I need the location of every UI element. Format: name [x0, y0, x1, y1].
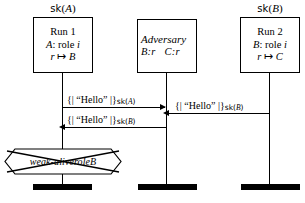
- adversary-binding-b: B:r: [141, 46, 156, 57]
- run2-var-mapping: r ↦ C: [257, 51, 282, 63]
- lane-header-run2: sk(B): [240, 2, 300, 14]
- run1-title: Run 1: [50, 26, 75, 38]
- lane-header-run2-prefix: sk: [257, 3, 268, 14]
- lane-header-run2-arg: B: [272, 2, 279, 14]
- msg1-key: sk(A): [117, 97, 136, 106]
- msg3-key-arg: B: [128, 117, 133, 126]
- run1-map-lhs: r: [51, 51, 55, 62]
- claim-role-arg: B: [90, 156, 96, 167]
- run2-role-name: i: [284, 39, 287, 50]
- lane-header-run1-paren-close: ): [72, 2, 76, 14]
- run-box-run2[interactable]: Run 2 B: role i r ↦ C: [240, 17, 300, 73]
- lifeline-run2: [269, 73, 270, 184]
- msg1-key-arg: A: [128, 97, 133, 106]
- claim-sep: role: [74, 156, 90, 167]
- claim-property-name: weak-alive: [30, 156, 74, 167]
- run2-map-lhs: r: [257, 51, 261, 62]
- msg3-open: {|: [67, 114, 74, 125]
- arrowhead-left-icon: [59, 124, 65, 130]
- arrowhead-left-icon: [163, 110, 169, 116]
- lane-header-run1-prefix: sk: [50, 3, 61, 14]
- lane-header-run2-paren-close: ): [279, 2, 283, 14]
- message-label-msg3: {| “Hello” |}sk(B): [66, 114, 136, 126]
- adversary-binding-c: C:r: [165, 46, 180, 57]
- msg1-close: |}: [110, 94, 117, 105]
- msg2-close: |}: [218, 100, 225, 111]
- msg1-key-prefix: sk: [117, 97, 125, 106]
- run2-map-rhs: C: [276, 51, 283, 62]
- adversary-title: Adversary: [138, 33, 186, 46]
- msg3-key: sk(B): [117, 117, 136, 126]
- msg3-key-prefix: sk: [117, 117, 125, 126]
- lane-header-run1: sk(A): [33, 2, 93, 14]
- mapsto-icon: ↦: [57, 51, 66, 62]
- adversary-bindings: B:rC:r: [138, 46, 180, 58]
- run1-var-mapping: r ↦ B: [51, 51, 76, 63]
- run1-role-sep: : role: [53, 39, 78, 50]
- msg1-open: {|: [67, 94, 74, 105]
- message-line-msg2: [168, 113, 269, 114]
- claim-label: weak-alive role B: [4, 148, 122, 175]
- msg3-payload: “Hello”: [76, 114, 107, 125]
- message-line-msg3: [64, 127, 166, 128]
- run2-role-binding: B: role i: [253, 39, 287, 51]
- msg2-key-prefix: sk: [225, 103, 233, 112]
- run-box-adversary[interactable]: Adversary B:rC:r: [137, 19, 197, 73]
- msg2-open: {|: [175, 100, 182, 111]
- terminator-run2: [241, 184, 300, 190]
- run2-title: Run 2: [257, 26, 282, 38]
- message-label-msg1: {| “Hello” |}sk(A): [66, 94, 136, 106]
- claim-weak-alive[interactable]: weak-alive role B: [4, 148, 122, 175]
- lifeline-adversary: [166, 73, 167, 184]
- terminator-run1: [33, 184, 92, 190]
- msg3-close: |}: [110, 114, 117, 125]
- msg1-payload: “Hello”: [76, 94, 107, 105]
- message-line-msg1: [62, 107, 165, 108]
- msg2-key: sk(B): [225, 103, 244, 112]
- msg2-key-arg: B: [236, 103, 241, 112]
- terminator-adversary: [138, 184, 197, 190]
- run1-role-name: i: [77, 39, 80, 50]
- msc-diagram: sk(A) sk(B) Run 1 A: role i r ↦ B Advers…: [0, 0, 305, 203]
- lane-header-run1-arg: A: [65, 2, 72, 14]
- run1-map-rhs: B: [69, 51, 75, 62]
- msg2-payload: “Hello”: [184, 100, 215, 111]
- mapsto-icon: ↦: [264, 51, 273, 62]
- run2-role-sep: : role: [260, 39, 285, 50]
- run1-role-binding: A: role i: [46, 39, 80, 51]
- message-label-msg2: {| “Hello” |}sk(B): [174, 100, 244, 112]
- run-box-run1[interactable]: Run 1 A: role i r ↦ B: [33, 17, 93, 73]
